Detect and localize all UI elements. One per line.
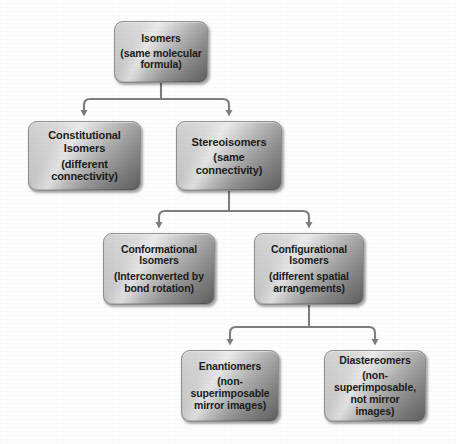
isomer-classification-diagram: Isomers (same molecular formula) Constit… xyxy=(0,0,456,444)
node-isomers[interactable]: Isomers (same molecular formula) xyxy=(114,21,208,83)
edge-stereoisomers-conformational xyxy=(159,211,229,225)
node-configurational-isomers-subtitle: (different spatial arrangements) xyxy=(260,271,358,295)
node-enantiomers-title: Enantiomers xyxy=(199,361,262,373)
node-configurational-isomers[interactable]: Configurational Isomers (different spati… xyxy=(254,233,364,305)
node-enantiomers[interactable]: Enantiomers (non-superimposable mirror i… xyxy=(181,350,279,422)
node-conformational-isomers-subtitle: (Interconverted by bond rotation) xyxy=(109,271,209,295)
edge-isomers-stereoisomers xyxy=(161,99,229,113)
edge-stereoisomers-configurational xyxy=(229,211,309,225)
node-enantiomers-subtitle: (non-superimposable mirror images) xyxy=(187,376,273,411)
node-isomers-title: Isomers xyxy=(141,33,181,45)
node-isomers-subtitle: (same molecular formula) xyxy=(120,48,202,72)
node-stereoisomers-title: Stereoisomers xyxy=(191,136,266,148)
node-conformational-isomers-title: Conformational Isomers xyxy=(109,244,209,268)
node-diastereomers-subtitle: (non-superimposable, not mirror images) xyxy=(330,370,420,417)
edge-configurational-diastereomers xyxy=(309,327,375,342)
node-stereoisomers[interactable]: Stereoisomers (same connectivity) xyxy=(176,121,282,191)
node-constitutional-isomers-title: Constitutional Isomers xyxy=(34,129,135,154)
node-diastereomers[interactable]: Diastereomers (non-superimposable, not m… xyxy=(324,350,426,422)
node-diastereomers-title: Diastereomers xyxy=(339,355,411,367)
node-constitutional-isomers-subtitle: (different connectivity) xyxy=(34,158,135,183)
node-conformational-isomers[interactable]: Conformational Isomers (Interconverted b… xyxy=(103,233,215,305)
node-stereoisomers-subtitle: (same connectivity) xyxy=(182,151,276,176)
node-configurational-isomers-title: Configurational Isomers xyxy=(260,244,358,268)
edge-isomers-constitutional xyxy=(84,99,161,113)
edge-configurational-enantiomers xyxy=(230,327,309,342)
node-constitutional-isomers[interactable]: Constitutional Isomers (different connec… xyxy=(28,121,141,191)
